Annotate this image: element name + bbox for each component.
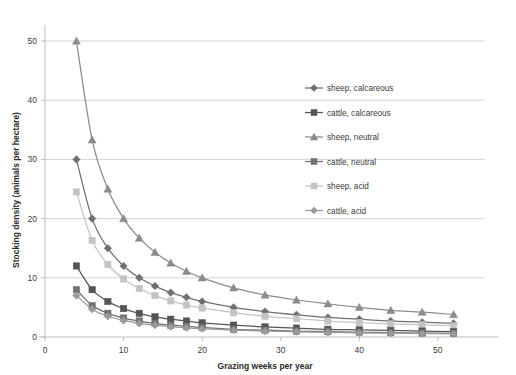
data-point-marker	[183, 302, 189, 308]
axis-lines	[39, 25, 498, 337]
legend-item-label: cattle, acid	[327, 207, 367, 216]
data-point-marker	[182, 267, 190, 274]
legend-item-label: sheep, neutral	[327, 133, 379, 142]
data-point-marker	[310, 207, 317, 214]
x-tick-label: 30	[276, 345, 286, 355]
data-point-marker	[120, 305, 126, 311]
legend-item-label: sheep, acid	[327, 182, 369, 191]
data-point-marker	[152, 314, 158, 320]
data-point-marker	[293, 315, 299, 321]
series-sheep-calcareous	[73, 156, 458, 328]
y-tick-label: 50	[28, 36, 38, 46]
data-point-marker	[105, 298, 111, 304]
data-point-marker	[388, 321, 394, 327]
y-axis-title: Stocking density (animals per hectare)	[11, 112, 21, 268]
data-point-marker	[88, 215, 96, 223]
legend-item-cattle-acid[interactable]: cattle, acid	[305, 207, 367, 216]
legend-item-label: cattle, neutral	[327, 158, 376, 167]
data-point-marker	[104, 244, 112, 252]
data-point-marker	[152, 292, 158, 298]
series-sheep-neutral	[72, 37, 457, 318]
data-point-marker	[73, 156, 81, 164]
data-series-group	[72, 37, 457, 338]
series-line	[76, 159, 453, 323]
x-axis-title: Grazing weeks per year	[218, 361, 314, 371]
y-tick-label: 40	[28, 95, 38, 105]
data-point-marker	[136, 285, 142, 291]
data-point-marker	[356, 319, 362, 325]
y-tick-label: 20	[28, 214, 38, 224]
data-point-marker	[450, 323, 456, 329]
data-point-marker	[167, 259, 175, 266]
data-point-marker	[88, 136, 96, 143]
data-point-marker	[230, 310, 236, 316]
data-point-marker	[136, 310, 142, 316]
data-point-marker	[167, 289, 175, 297]
data-point-marker	[168, 316, 174, 322]
legend-item-cattle-neutral[interactable]: cattle, neutral	[305, 158, 376, 167]
data-point-marker	[73, 189, 79, 195]
data-point-marker	[136, 274, 144, 282]
data-point-marker	[151, 282, 159, 290]
x-tick-label: 0	[43, 345, 48, 355]
x-tick-label: 40	[355, 345, 365, 355]
series-line	[76, 192, 453, 326]
line-chart: 01020304050 01020304050 sheep, calcareou…	[0, 0, 516, 375]
data-point-marker	[89, 286, 95, 292]
chart-legend: sheep, calcareouscattle, calcareoussheep…	[305, 84, 393, 216]
x-tick-label: 10	[119, 345, 129, 355]
y-tick-labels: 01020304050	[28, 36, 38, 342]
data-point-marker	[120, 276, 126, 282]
x-tick-labels: 01020304050	[43, 345, 443, 355]
data-point-marker	[105, 261, 111, 267]
legend-item-label: cattle, calcareous	[327, 109, 391, 118]
data-point-marker	[168, 298, 174, 304]
legend-item-sheep-calcareous[interactable]: sheep, calcareous	[305, 84, 393, 93]
chart-container: 01020304050 01020304050 sheep, calcareou…	[0, 0, 516, 375]
data-point-marker	[262, 313, 268, 319]
data-point-marker	[199, 305, 205, 311]
data-point-marker	[311, 183, 317, 189]
data-point-marker	[198, 298, 206, 306]
y-tick-label: 10	[28, 273, 38, 283]
y-tick-label: 30	[28, 154, 38, 164]
data-point-marker	[73, 263, 79, 269]
x-tick-label: 50	[433, 345, 443, 355]
legend-item-sheep-acid[interactable]: sheep, acid	[305, 182, 369, 191]
data-point-marker	[311, 110, 317, 116]
data-point-marker	[419, 322, 425, 328]
data-point-marker	[325, 318, 331, 324]
data-point-marker	[104, 185, 112, 192]
data-point-marker	[311, 159, 317, 165]
data-point-marker	[310, 84, 317, 91]
data-point-marker	[183, 294, 191, 302]
data-point-marker	[89, 237, 95, 243]
legend-item-cattle-calcareous[interactable]: cattle, calcareous	[305, 109, 391, 118]
legend-item-label: sheep, calcareous	[327, 84, 393, 93]
x-tick-label: 20	[197, 345, 207, 355]
legend-item-sheep-neutral[interactable]: sheep, neutral	[305, 133, 379, 142]
gridlines	[45, 41, 485, 278]
y-tick-label: 0	[32, 332, 37, 342]
